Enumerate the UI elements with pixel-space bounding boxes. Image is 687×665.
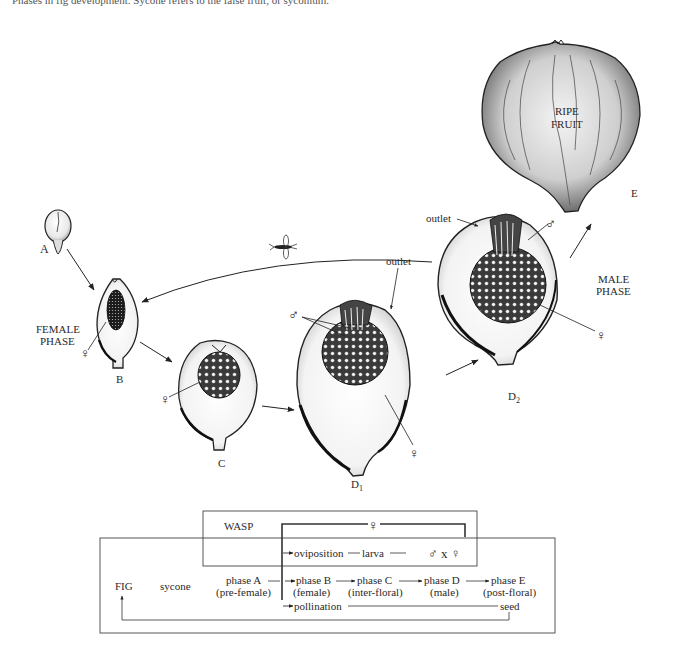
ripe-fruit-label-line2: FRUIT bbox=[551, 118, 583, 130]
outlet-label-d2: outlet bbox=[426, 212, 451, 224]
male-symbol-d2: ♂ bbox=[545, 216, 556, 232]
female-symbol-d1: ♀ bbox=[409, 446, 420, 461]
stage-d2-label: D2 bbox=[508, 390, 520, 405]
fig-development-diagram: A FEMALE PHASE ♀ B ♀ C outlet ♂ ♀ D1 bbox=[0, 0, 687, 665]
female-symbol-d2: ♀ bbox=[596, 328, 607, 343]
arrow-a-to-b bbox=[67, 249, 94, 290]
sycone-label: sycone bbox=[160, 580, 191, 592]
phase-c-name: phase C bbox=[357, 574, 392, 586]
ripe-fruit-label-line1: RIPE bbox=[555, 105, 579, 117]
fig-stage-b bbox=[97, 279, 138, 368]
female-phase-label-line1: FEMALE bbox=[36, 323, 80, 335]
phase-e-name: phase E bbox=[491, 574, 526, 586]
wasp-female-line-right bbox=[380, 524, 465, 537]
wasp-icon bbox=[269, 235, 297, 259]
arrow-d1-to-d2 bbox=[446, 360, 478, 375]
phase-b-name: phase B bbox=[296, 574, 331, 586]
fig-label: FIG bbox=[115, 580, 133, 592]
arrow-c-to-d1 bbox=[262, 406, 294, 410]
male-phase-label-line2: PHASE bbox=[596, 285, 631, 297]
female-symbol-c: ♀ bbox=[160, 392, 171, 407]
seed-label: seed bbox=[500, 600, 520, 612]
stage-d1-label: D1 bbox=[351, 478, 363, 493]
phase-c-desc: (inter-floral) bbox=[348, 586, 403, 599]
phase-b-desc: (female) bbox=[293, 586, 331, 599]
larva-label: larva bbox=[362, 547, 384, 559]
mating-label: ♂ x ♀ bbox=[428, 546, 461, 561]
phase-e-desc: (post-floral) bbox=[483, 586, 536, 599]
phase-d-name: phase D bbox=[424, 574, 460, 586]
male-symbol-d1: ♂ bbox=[288, 307, 299, 323]
arrow-d2-to-e bbox=[570, 224, 591, 258]
stage-a-label: A bbox=[40, 242, 49, 256]
stage-e-label: E bbox=[631, 187, 638, 199]
stage-c-label: C bbox=[218, 457, 225, 469]
arrow-b-to-c bbox=[140, 342, 172, 362]
fig-stage-a bbox=[45, 210, 71, 254]
phase-d-desc: (male) bbox=[430, 586, 459, 599]
oviposition-label: oviposition bbox=[294, 547, 344, 559]
male-phase-label-line1: MALE bbox=[598, 273, 629, 285]
stage-b-label: B bbox=[116, 373, 123, 385]
fig-stage-d1 bbox=[297, 300, 410, 476]
fig-stage-c bbox=[179, 341, 257, 451]
fig-stage-d2 bbox=[438, 214, 557, 365]
outlet-pointer-d1 bbox=[391, 268, 398, 309]
cycle-diagram: WASP ♀ oviposition larva ♂ x ♀ FIG sycon… bbox=[100, 511, 555, 633]
wasp-female-symbol: ♀ bbox=[368, 518, 379, 533]
pollination-label: pollination bbox=[294, 600, 342, 612]
phase-a-desc: (pre-female) bbox=[216, 586, 271, 599]
wasp-label: WASP bbox=[224, 520, 253, 532]
female-phase-label-line2: PHASE bbox=[40, 335, 75, 347]
phase-a-name: phase A bbox=[226, 574, 261, 586]
